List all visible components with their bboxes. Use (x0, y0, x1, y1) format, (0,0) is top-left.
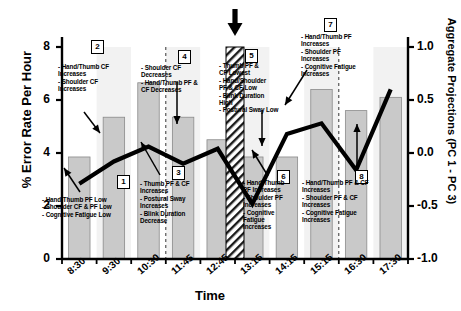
annotation-badge-1: 1 (117, 175, 130, 189)
y-axis-right-tick: -0.5 (417, 198, 449, 212)
annotation-text-8: - Hand/Thumb PF & CF Increases - Shoulde… (302, 179, 369, 223)
bar-17-30 (380, 97, 401, 259)
annotation-text-4: - Shoulder CF Decreases - Hand/Thumb PF … (141, 64, 198, 94)
annotation-text-2: - Hand/Thumb CF Increases - Shoulder CF … (58, 63, 109, 93)
annotation-text-3: - Thumb PF & CF Increases - Postural Swa… (140, 180, 190, 224)
annotation-text-5: - Thumb PF & CF Lowest - Hand/Shoulder P… (219, 62, 278, 114)
annotation-badge-7: 7 (324, 18, 337, 32)
annotation-text-6: - Hand/Thumb PF Increases - Shoulder PF … (243, 179, 284, 231)
annotation-text-7: - Hand/Thumb PF Increases - Shoulder PF … (301, 33, 356, 77)
y-axis-right-tick: -1.0 (417, 251, 449, 265)
y-axis-left-tick: 6 (30, 92, 50, 106)
annotation-badge-3: 3 (172, 166, 185, 180)
bar-10-30 (138, 83, 159, 259)
y-axis-left-tick: 0 (30, 251, 50, 265)
bar-15-15 (311, 89, 332, 259)
annotation-text-1: - Hand/Thumb PF Low - Shoulder CF & PF L… (42, 196, 112, 218)
y-axis-right-tick: 0.0 (417, 145, 449, 159)
break-down-arrow-icon (228, 9, 243, 36)
y-axis-left-tick: 4 (30, 145, 50, 159)
annotation-badge-2: 2 (91, 40, 104, 54)
y-axis-right-tick: 1.0 (417, 39, 449, 53)
y-axis-right-tick: 0.5 (417, 92, 449, 106)
annotation-badge-4: 4 (178, 50, 191, 64)
annotation-badge-5: 5 (245, 49, 258, 63)
chart-figure: % Error Rate Per Hour Aggregate Projecti… (0, 0, 461, 311)
y-axis-left-tick: 8 (30, 39, 50, 53)
